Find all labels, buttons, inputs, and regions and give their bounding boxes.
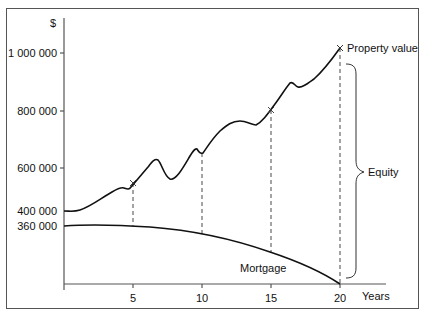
- equity-label: Equity: [368, 166, 399, 178]
- x-axis-unit: Years: [362, 290, 390, 302]
- property-value-curve: [64, 48, 340, 211]
- x-label-15: 15: [265, 292, 277, 304]
- y-label-1000000: 1 000 000: [8, 47, 57, 59]
- mortgage-label: Mortgage: [240, 262, 286, 274]
- y-label-400000: 400 000: [17, 205, 57, 217]
- mortgage-curve: [64, 225, 340, 284]
- y-label-600000: 600 000: [17, 162, 57, 174]
- x-label-10: 10: [196, 292, 208, 304]
- y-axis-unit: $: [50, 17, 56, 29]
- y-label-360000: 360 000: [17, 220, 57, 232]
- equity-brace: [346, 64, 364, 278]
- property-value-label: Property value: [347, 42, 418, 54]
- x-label-5: 5: [130, 292, 136, 304]
- y-label-800000: 800 000: [17, 105, 57, 117]
- x-label-20: 20: [334, 292, 346, 304]
- equity-chart: $ 1 000 000 800 000 600 000 400 000 360 …: [0, 0, 426, 318]
